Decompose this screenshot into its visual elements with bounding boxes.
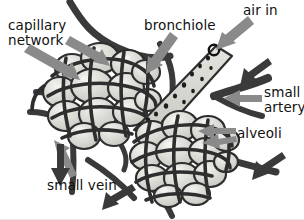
label-small-vein: small vein (47, 178, 117, 193)
alveolar-cluster-right (130, 111, 239, 207)
lung-alveoli-diagram: capillary network bronchiole air in smal… (0, 0, 304, 220)
pointer-air-in (216, 16, 254, 50)
label-capillary-network: capillary network (8, 18, 66, 48)
label-air-in: air in (243, 3, 278, 18)
label-small-artery: small artery (264, 85, 304, 115)
flow-artery-bottom (252, 152, 286, 180)
label-bronchiole: bronchiole (144, 18, 216, 33)
label-alveoli: alveoli (237, 126, 282, 141)
